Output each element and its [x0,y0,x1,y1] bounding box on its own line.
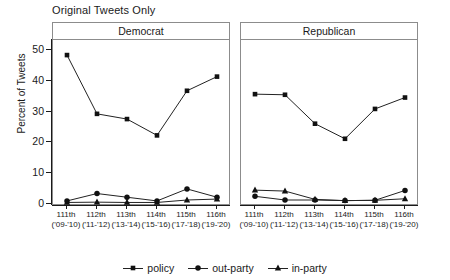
y-tick-label: 30 [22,106,44,116]
y-tick-label: 40 [22,75,44,85]
y-tick-label: 0 [22,198,44,208]
legend-marker-square-icon [123,262,143,274]
legend-label: policy [147,262,174,274]
legend-item-in-party[interactable]: in-party [268,262,327,274]
panel-strip-label: Republican [241,23,417,40]
legend-item-policy[interactable]: policy [123,262,174,274]
chart-figure: Original Tweets Only Percent of Tweets 0… [0,0,450,280]
chart-panel-republican: Republican [240,22,418,205]
panel-strip-label: Democrat [53,23,229,40]
legend-marker-circle-icon [188,262,208,274]
legend-label: out-party [212,262,253,274]
x-axis-line [52,205,230,206]
legend-label: in-party [292,262,327,274]
y-tick-label: 50 [22,44,44,54]
plot-area [241,40,417,204]
chart-legend: policyout-partyin-party [0,262,450,274]
plot-area [53,40,229,204]
x-axis-line [240,205,418,206]
legend-item-out-party[interactable]: out-party [188,262,253,274]
chart-panel-democrat: Democrat [52,22,230,205]
legend-marker-triangle-icon [268,262,288,274]
x-tick-label-congress: 116th [381,210,427,220]
y-tick-label: 20 [22,136,44,146]
y-tick-label: 10 [22,167,44,177]
chart-title: Original Tweets Only [52,4,155,16]
x-tick-label: 116th('19-'20) [381,210,427,230]
x-tick-label-years: ('19-'20) [381,220,427,230]
